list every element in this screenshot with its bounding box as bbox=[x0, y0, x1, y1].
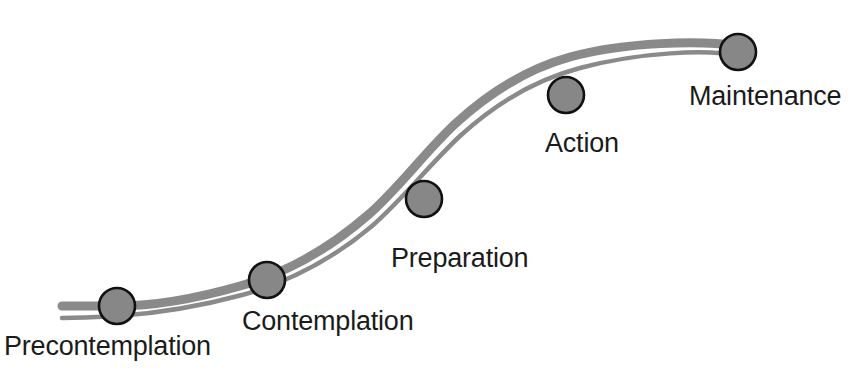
s-curve-graphic bbox=[0, 0, 850, 382]
stages-of-change-diagram: Precontemplation Contemplation Preparati… bbox=[0, 0, 850, 382]
stage-label-contemplation: Contemplation bbox=[242, 308, 414, 335]
stage-label-action: Action bbox=[545, 130, 619, 157]
stage-node-preparation[interactable] bbox=[406, 181, 442, 217]
stage-node-maintenance[interactable] bbox=[720, 34, 756, 70]
stage-label-maintenance: Maintenance bbox=[689, 83, 841, 110]
stage-node-action[interactable] bbox=[548, 77, 584, 113]
stage-label-preparation: Preparation bbox=[391, 245, 528, 272]
stage-node-contemplation[interactable] bbox=[249, 262, 285, 298]
stage-node-precontemplation[interactable] bbox=[99, 288, 135, 324]
stage-label-precontemplation: Precontemplation bbox=[4, 333, 211, 360]
